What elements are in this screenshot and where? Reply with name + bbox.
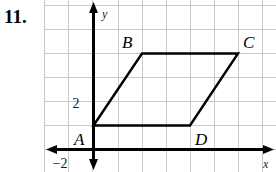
problem-number: 11. [4, 6, 27, 28]
x-axis-label: x [262, 157, 269, 171]
vertex-label-c: C [243, 33, 255, 52]
y-axis-arrow-up [89, 2, 98, 13]
coordinate-graph: B C A D 2 −2 y x [44, 0, 276, 172]
y-axis [89, 2, 98, 170]
x-axis-arrow-right [263, 145, 274, 154]
parallelogram-abcd [94, 54, 239, 126]
y-tick-label-2: 2 [73, 96, 80, 111]
graph-svg: B C A D 2 −2 y x [44, 0, 276, 172]
vertex-label-d: D [194, 130, 208, 149]
y-axis-arrow-down [89, 159, 98, 170]
x-tick-label-minus2: −2 [53, 156, 68, 171]
vertex-label-b: B [122, 33, 133, 52]
y-axis-label: y [101, 7, 108, 21]
vertex-label-a: A [73, 130, 85, 149]
x-axis-arrow-left [46, 145, 57, 154]
worksheet-figure: 11. [0, 0, 276, 172]
